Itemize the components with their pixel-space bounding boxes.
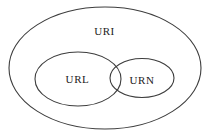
url-label: URL [66, 73, 90, 85]
venn-diagram-canvas: URI URL URN [0, 0, 211, 135]
uri-label: URI [94, 25, 115, 37]
urn-label: URN [129, 74, 154, 86]
uri-url-urn-venn-diagram: URI URL URN [0, 0, 211, 135]
